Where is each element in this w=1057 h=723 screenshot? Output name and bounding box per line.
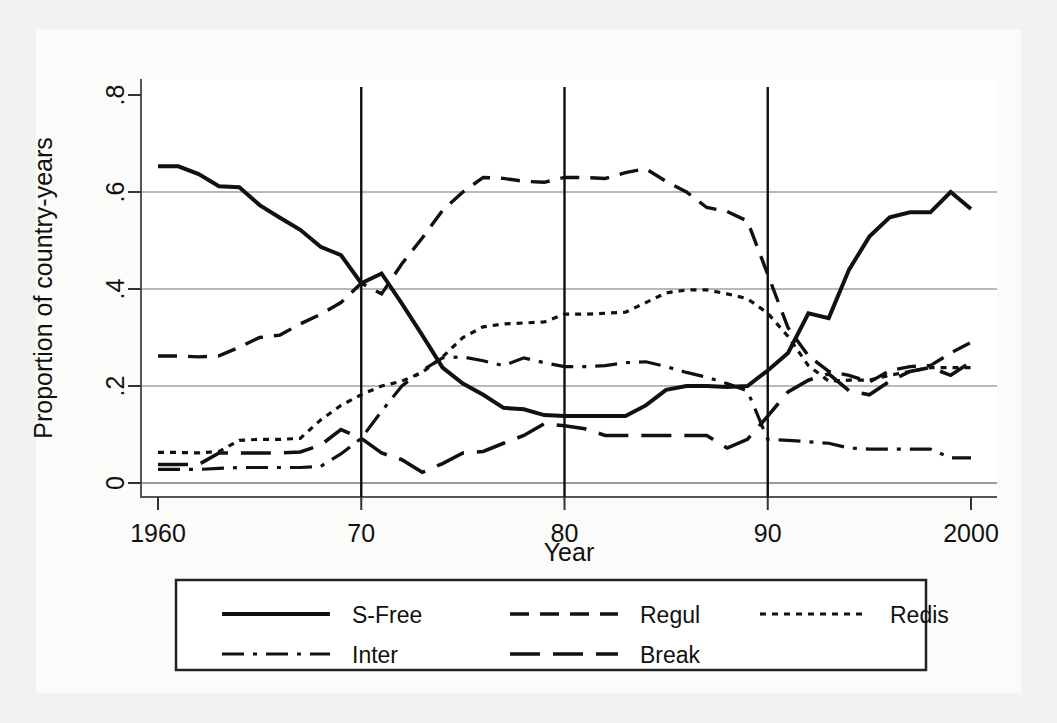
- x-tick-label-3: 90: [754, 519, 782, 547]
- x-tick-label-4: 2000: [943, 519, 999, 547]
- x-axis-title: Year: [544, 538, 595, 566]
- y-tick-label-0: 0: [101, 476, 129, 490]
- legend-box: [176, 580, 926, 670]
- plot-area-background: [141, 79, 997, 497]
- legend-label-regul: Regul: [640, 602, 700, 628]
- legend-label-redis: Redis: [890, 602, 949, 628]
- line-chart: 0.2.4.6.8 19607080902000 Proportion of c…: [0, 0, 1057, 723]
- legend-label-break: Break: [640, 642, 701, 668]
- y-axis-title: Proportion of country-years: [29, 137, 57, 439]
- y-tick-label-3: .6: [101, 182, 129, 203]
- y-tick-label-2: .4: [101, 278, 129, 299]
- x-tick-label-1: 70: [347, 519, 375, 547]
- legend-label-s_free: S-Free: [352, 602, 422, 628]
- y-axis-ticks: [128, 95, 141, 483]
- legend-label-inter: Inter: [352, 642, 398, 668]
- y-tick-label-4: .8: [101, 85, 129, 106]
- x-axis-ticks: [158, 497, 971, 510]
- y-axis-tick-labels: 0.2.4.6.8: [101, 85, 129, 490]
- x-tick-label-0: 1960: [130, 519, 186, 547]
- y-tick-label-1: .2: [101, 376, 129, 397]
